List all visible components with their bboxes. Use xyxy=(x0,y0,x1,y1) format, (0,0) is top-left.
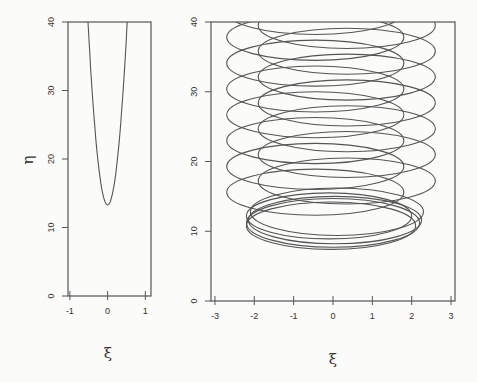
x-tick-label: -1 xyxy=(66,306,74,316)
x-tick-label: 2 xyxy=(409,311,414,321)
y-tick-label: 30 xyxy=(46,85,56,95)
y-tick-label: 0 xyxy=(46,293,56,298)
parabola-curve xyxy=(88,22,127,205)
x-tick-label: 3 xyxy=(449,311,454,321)
left-frame xyxy=(68,22,151,296)
right-panel: -3-2-10123010203040 xyxy=(189,0,455,321)
loop-ellipse xyxy=(258,158,435,204)
x-tick-label: -2 xyxy=(250,311,258,321)
left-panel: -101010203040 xyxy=(46,17,151,316)
loop-ellipse xyxy=(246,202,415,249)
left-x-axis-label: ξ xyxy=(104,344,112,362)
loop-ellipse xyxy=(246,193,411,239)
y-tick-label: 10 xyxy=(46,222,56,232)
x-tick-label: 0 xyxy=(330,311,335,321)
y-tick-label: 20 xyxy=(189,156,199,166)
right-x-axis-label: ξ xyxy=(329,350,337,368)
x-tick-label: 1 xyxy=(370,311,375,321)
y-tick-label: 0 xyxy=(189,298,199,303)
x-tick-label: -3 xyxy=(211,311,219,321)
x-tick-label: 0 xyxy=(105,306,110,316)
x-tick-label: 1 xyxy=(143,306,148,316)
trajectory-loops xyxy=(227,0,436,249)
y-tick-label: 30 xyxy=(189,87,199,97)
y-tick-label: 20 xyxy=(46,154,56,164)
figure: -101010203040 -3-2-10123010203040 ξ η ξ xyxy=(0,0,477,382)
loop-ellipse xyxy=(227,14,404,60)
left-y-axis-label: η xyxy=(19,156,37,165)
x-tick-label: -1 xyxy=(290,311,298,321)
y-tick-label: 40 xyxy=(46,17,56,27)
loop-ellipse xyxy=(246,198,419,247)
y-tick-label: 10 xyxy=(189,226,199,236)
y-tick-label: 40 xyxy=(189,17,199,27)
